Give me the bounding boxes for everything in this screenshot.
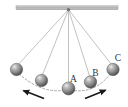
label-a: A (70, 74, 77, 84)
label-b: B (92, 68, 98, 78)
motion-arrow-left (24, 91, 45, 99)
pivot-point (67, 8, 70, 11)
string-to-far-left-ball (17, 10, 69, 67)
label-c: C (115, 53, 121, 63)
string-to-right-ball (69, 10, 91, 79)
ball-far-left (10, 63, 22, 75)
string-to-left-ball (42, 10, 69, 77)
motion-arrow-right (85, 90, 106, 98)
pendulum-figure: A B C (0, 0, 128, 107)
string-to-far-right-ball (69, 10, 113, 67)
ball-far-right-c (107, 63, 119, 75)
ball-center-a (62, 82, 75, 95)
pendulum-diagram-svg: A B C (0, 0, 128, 107)
pendulum-balls (10, 63, 119, 95)
ball-left (35, 74, 47, 86)
